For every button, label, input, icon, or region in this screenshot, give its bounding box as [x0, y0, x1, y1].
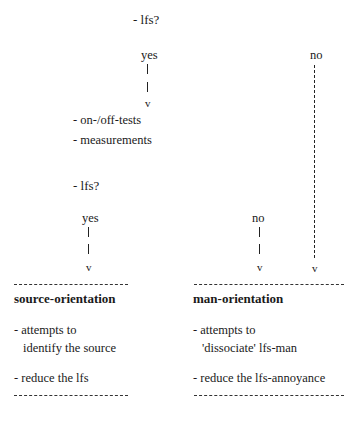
top-no-label: no — [310, 48, 323, 62]
top-no-connector — [314, 65, 315, 258]
top-yes-arrow-icon: v — [145, 97, 151, 109]
source-top-divider — [14, 284, 128, 285]
man-top-divider — [194, 284, 344, 285]
second-yes-arrow-icon: v — [86, 261, 92, 273]
second-no-label: no — [252, 211, 265, 225]
second-yes-label: yes — [82, 211, 99, 225]
source-bottom-divider — [14, 395, 128, 396]
source-item-1-line-1: - attempts to — [14, 323, 77, 337]
top-no-arrow-icon: v — [312, 262, 318, 274]
second-yes-connector-1 — [88, 227, 89, 237]
second-no-arrow-icon: v — [257, 261, 263, 273]
top-yes-connector-2 — [147, 82, 148, 92]
step-measurements: - measurements — [73, 133, 152, 147]
source-item-2: - reduce the lfs — [14, 371, 89, 385]
man-item-2: - reduce the lfs-annoyance — [193, 371, 325, 385]
man-bottom-divider — [194, 395, 344, 396]
second-question: - lfs? — [73, 179, 99, 193]
second-no-connector-2 — [259, 244, 260, 254]
man-item-1-line-2: 'dissociate' lfs-man — [202, 341, 297, 355]
top-yes-connector-1 — [147, 64, 148, 74]
source-orientation-title: source-orientation — [14, 292, 116, 306]
man-orientation-title: man-orientation — [193, 292, 283, 306]
source-item-1-line-2: identify the source — [23, 341, 116, 355]
top-yes-label: yes — [141, 48, 158, 62]
second-yes-connector-2 — [88, 244, 89, 254]
man-item-1-line-1: - attempts to — [193, 323, 256, 337]
second-no-connector-1 — [259, 227, 260, 237]
top-question: - lfs? — [133, 13, 159, 27]
step-on-off-tests: - on-/off-tests — [73, 113, 141, 127]
